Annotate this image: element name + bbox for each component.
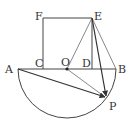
label-P: P (109, 100, 117, 113)
segment-OP (67, 69, 105, 97)
label-C: C (35, 57, 43, 70)
diagram-canvas: A B C O D F E P (0, 0, 133, 125)
label-O: O (61, 56, 70, 69)
geometry-figure: A B C O D F E P (0, 0, 133, 125)
label-A: A (4, 63, 14, 76)
label-F: F (35, 10, 43, 23)
semicircle-arc (18, 69, 116, 118)
vector-AP (18, 69, 105, 97)
segment-EB (92, 18, 116, 69)
label-E: E (94, 10, 102, 23)
label-D: D (82, 57, 91, 70)
vector-EP (92, 18, 106, 96)
label-B: B (118, 63, 126, 76)
